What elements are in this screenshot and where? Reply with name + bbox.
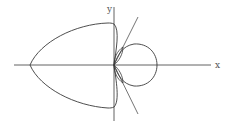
large-left-loop xyxy=(30,23,117,108)
y-axis-label: y xyxy=(106,4,113,14)
upper-tangent-line xyxy=(114,17,138,65)
x-axis-label: x xyxy=(215,60,220,70)
lower-tangent-line xyxy=(114,65,138,114)
polar-curve-figure: x y xyxy=(0,0,233,130)
plot-canvas: x y xyxy=(0,0,233,130)
